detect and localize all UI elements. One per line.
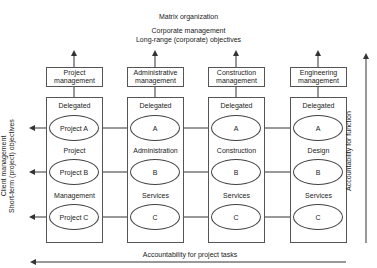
mgmt-label-line1: Administrative <box>128 69 183 77</box>
column-label-1: Design <box>290 147 347 155</box>
column-label-2: Services <box>127 192 184 200</box>
delegated-label: Delegated <box>127 102 184 110</box>
corporate-management-label: Corporate management <box>0 27 377 35</box>
column-label-2: Services <box>208 192 265 200</box>
delegated-label: Delegated <box>208 102 265 110</box>
mgmt-label-line1: Construction <box>209 69 264 77</box>
oval-admin-b: B <box>130 159 180 185</box>
oval-construction-c: C <box>211 204 261 230</box>
oval-engineering-a: A <box>293 115 343 141</box>
mgmt-label-line2: management <box>209 77 264 85</box>
mgmt-label-line1: Engineering <box>291 69 346 77</box>
delegated-label: Delegated <box>46 102 103 110</box>
administrative-management-box: Administrative management <box>127 67 184 87</box>
mgmt-label-line2: management <box>47 77 102 85</box>
oval-construction-a: A <box>211 115 261 141</box>
delegated-label: Delegated <box>290 102 347 110</box>
mgmt-label-line2: management <box>128 77 183 85</box>
oval-construction-b: B <box>211 159 261 185</box>
oval-engineering-c: C <box>293 204 343 230</box>
project-management-box: Project management <box>46 67 103 87</box>
client-management-axis-label: Client management Short-term (project) o… <box>0 106 16 226</box>
accountability-project-tasks-label: Accountability for project tasks <box>60 251 320 259</box>
mgmt-label-line2: management <box>291 77 346 85</box>
mgmt-label-line1: Project <box>47 69 102 77</box>
accountability-function-axis-label: Accountability for function <box>345 101 353 201</box>
column-label-1: Construction <box>208 147 265 155</box>
column-label-1: Project <box>46 147 103 155</box>
oval-project-a: Project A <box>49 115 99 141</box>
column-label-2: Management <box>46 192 103 200</box>
client-management-line1: Client management <box>0 106 8 226</box>
oval-project-b: Project B <box>49 159 99 185</box>
oval-project-c: Project C <box>49 204 99 230</box>
oval-admin-a: A <box>130 115 180 141</box>
corporate-objectives-label: Long-range (corporate) objectives <box>0 36 377 44</box>
engineering-management-box: Engineering management <box>290 67 347 87</box>
column-label-2: Services <box>290 192 347 200</box>
column-label-1: Administration <box>127 147 184 155</box>
oval-admin-c: C <box>130 204 180 230</box>
construction-management-box: Construction management <box>208 67 265 87</box>
short-term-objectives-line2: Short-term (project) objectives <box>8 106 16 226</box>
oval-engineering-b: B <box>293 159 343 185</box>
diagram-title: Matrix organization <box>0 13 377 21</box>
